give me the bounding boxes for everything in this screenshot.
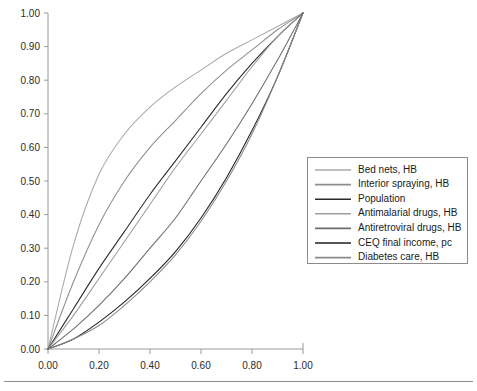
curve-population [48, 13, 303, 349]
y-tick-label: 0.00 [21, 344, 41, 355]
legend-item-label: Antiretroviral drugs, HB [358, 222, 462, 233]
x-tick-marks [48, 349, 303, 354]
curve-antimalarial-drugs-hb [48, 13, 303, 349]
y-tick-label: 0.30 [21, 243, 41, 254]
curve-ceq-final-income-pc [48, 13, 303, 349]
axis-lines [48, 13, 303, 349]
legend-item-label: Population [358, 193, 405, 204]
y-tick-label: 0.20 [21, 276, 41, 287]
x-tick-label: 0.00 [38, 360, 58, 371]
curve-series-group [48, 13, 303, 349]
legend-item-label: CEQ final income, pc [358, 237, 452, 248]
y-tick-label: 0.70 [21, 108, 41, 119]
curve-bed-nets-hb [48, 13, 303, 349]
curve-interior-spraying-hb [48, 13, 303, 349]
x-tick-label: 0.60 [191, 360, 211, 371]
legend-item-label: Bed nets, HB [358, 164, 417, 175]
curve-antiretroviral-drugs-hb [48, 13, 303, 349]
legend-item-label: Antimalarial drugs, HB [358, 207, 458, 218]
y-tick-label: 1.00 [21, 8, 41, 19]
concentration-curve-figure: 0.000.100.200.300.400.500.600.700.800.90… [0, 0, 477, 391]
legend-item-label: Diabetes care, HB [358, 251, 439, 262]
y-tick-label: 0.60 [21, 142, 41, 153]
chart-legend: Bed nets, HBInterior spraying, HBPopulat… [308, 158, 468, 264]
x-tick-label: 1.00 [293, 360, 313, 371]
curve-diabetes-care-hb [48, 13, 303, 349]
x-tick-label: 0.20 [89, 360, 109, 371]
y-tick-label: 0.50 [21, 176, 41, 187]
y-axis-tick-labels: 0.000.100.200.300.400.500.600.700.800.90… [21, 8, 41, 355]
y-tick-label: 0.10 [21, 310, 41, 321]
x-tick-label: 0.80 [242, 360, 262, 371]
x-tick-label: 0.40 [140, 360, 160, 371]
y-tick-label: 0.40 [21, 209, 41, 220]
y-tick-marks [44, 13, 48, 349]
chart-canvas: 0.000.100.200.300.400.500.600.700.800.90… [0, 0, 477, 391]
x-axis-tick-labels: 0.000.200.400.600.801.00 [38, 360, 313, 371]
y-tick-label: 0.90 [21, 41, 41, 52]
legend-item-label: Interior spraying, HB [358, 178, 449, 189]
y-tick-label: 0.80 [21, 75, 41, 86]
